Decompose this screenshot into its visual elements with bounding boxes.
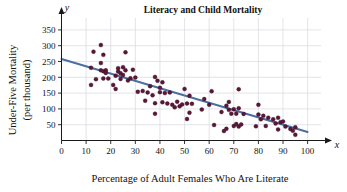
x-tick-label: 90 <box>279 146 289 156</box>
data-point <box>158 90 162 94</box>
data-point <box>212 123 216 127</box>
y-tick-label: 50 <box>47 120 57 130</box>
data-point <box>151 93 155 97</box>
data-point <box>187 111 191 115</box>
data-point <box>200 108 204 112</box>
data-point <box>143 99 147 103</box>
data-point <box>99 61 103 65</box>
data-point <box>155 79 159 83</box>
x-tick-label: 50 <box>180 146 190 156</box>
y-tick-label: 300 <box>42 41 56 51</box>
data-point <box>232 107 236 111</box>
x-axis-variable-label: x <box>334 139 340 150</box>
data-point <box>160 100 164 104</box>
data-point <box>99 43 103 47</box>
data-point <box>274 121 278 125</box>
x-tick-label: 40 <box>155 146 165 156</box>
data-point <box>224 127 228 131</box>
x-axis-label: Percentage of Adult Females Who Are Lite… <box>92 173 289 184</box>
x-axis-arrowhead <box>325 138 332 144</box>
data-point <box>254 124 258 128</box>
data-point <box>239 122 243 126</box>
chart-title: Literacy and Child Mortality <box>144 5 263 15</box>
data-point <box>114 74 118 78</box>
x-tick-label: 0 <box>59 146 64 156</box>
data-point <box>101 77 105 81</box>
data-point <box>237 87 241 91</box>
data-point <box>276 116 280 120</box>
data-point <box>131 68 135 72</box>
y-axis-variable-label: y <box>64 2 70 13</box>
data-points-group <box>89 43 297 137</box>
axis-tick-labels-group: 0102030405060708090100501001502002503003… <box>42 25 315 155</box>
data-point <box>153 101 157 105</box>
data-point <box>165 102 169 106</box>
x-tick-label: 30 <box>131 146 141 156</box>
y-tick-label: 150 <box>42 88 56 98</box>
data-point <box>281 120 285 124</box>
data-point <box>183 87 187 91</box>
data-point <box>101 53 105 57</box>
data-point <box>242 112 246 116</box>
data-point <box>133 76 137 80</box>
data-point <box>89 83 93 87</box>
data-point <box>234 112 238 116</box>
y-tick-label: 200 <box>42 73 56 83</box>
data-point <box>146 90 150 94</box>
data-point <box>175 100 179 104</box>
data-point <box>261 114 265 118</box>
x-tick-label: 20 <box>106 146 116 156</box>
x-tick-label: 80 <box>254 146 264 156</box>
data-point <box>94 77 98 81</box>
data-point <box>237 106 241 110</box>
data-point <box>141 89 145 93</box>
x-tick-label: 60 <box>205 146 215 156</box>
x-tick-label: 10 <box>82 146 92 156</box>
data-point <box>293 133 297 137</box>
data-point <box>89 66 93 70</box>
data-point <box>114 87 118 91</box>
data-point <box>153 112 157 116</box>
data-point <box>227 100 231 104</box>
data-point <box>293 125 297 129</box>
y-tick-label: 250 <box>42 57 56 67</box>
data-point <box>148 84 152 88</box>
scatter-plot-figure: 0102030405060708090100501001502002503003… <box>0 0 347 192</box>
data-point <box>256 113 260 117</box>
y-axis-label-line2: (per thousand) <box>21 59 33 120</box>
data-point <box>291 129 295 133</box>
data-point <box>136 90 140 94</box>
data-point <box>119 77 123 81</box>
data-point <box>158 86 162 90</box>
x-tick-label: 100 <box>301 146 315 156</box>
data-point <box>121 73 125 77</box>
data-point <box>180 102 184 106</box>
y-axis-label-line1: Under-Five Mortality <box>7 44 18 135</box>
data-point <box>224 104 228 108</box>
data-point <box>128 76 132 80</box>
data-point <box>111 83 115 87</box>
data-point <box>185 102 189 106</box>
data-point <box>104 71 108 75</box>
data-point <box>256 103 260 107</box>
data-point <box>266 116 270 120</box>
x-tick-label: 70 <box>229 146 239 156</box>
data-point <box>271 117 275 121</box>
data-point <box>227 108 231 112</box>
data-point <box>202 97 206 101</box>
data-point <box>123 68 127 72</box>
data-point <box>187 94 191 98</box>
data-point <box>276 127 280 131</box>
data-point <box>123 50 127 54</box>
data-point <box>173 105 177 109</box>
data-point <box>219 110 223 114</box>
data-point <box>210 89 214 93</box>
data-point <box>168 90 172 94</box>
data-point <box>91 50 95 54</box>
data-point <box>283 125 287 129</box>
data-point <box>163 91 167 95</box>
y-tick-label: 100 <box>42 104 56 114</box>
data-point <box>185 117 189 121</box>
y-tick-label: 350 <box>42 25 56 35</box>
data-point <box>160 80 164 84</box>
